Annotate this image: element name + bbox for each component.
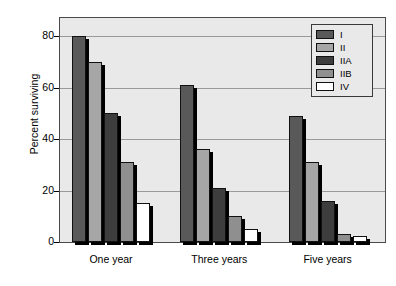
- legend-item: II: [316, 42, 369, 53]
- legend-item: IIB: [316, 68, 369, 79]
- bar-body: [120, 162, 134, 242]
- y-tick-label: 40: [32, 133, 54, 144]
- legend-swatch: [316, 82, 334, 91]
- bar: [104, 113, 118, 242]
- x-group-label: Five years: [278, 253, 378, 265]
- y-tick-label: 60: [32, 82, 54, 93]
- x-group-label: One year: [61, 253, 161, 265]
- bar: [120, 162, 134, 242]
- bar-chart: Percent surviving 806040200 One yearThre…: [0, 0, 396, 286]
- bar-body: [305, 162, 319, 242]
- legend-label: IIA: [340, 56, 352, 66]
- bar-body: [88, 62, 102, 242]
- legend-swatch: [316, 69, 334, 78]
- bar: [180, 85, 194, 242]
- bar: [72, 36, 86, 242]
- legend-label: II: [340, 43, 345, 53]
- y-tick-label: 0: [32, 236, 54, 247]
- bar: [337, 234, 351, 242]
- bar-body: [180, 85, 194, 242]
- bar-body: [72, 36, 86, 242]
- bar-body: [136, 203, 150, 242]
- bar: [228, 216, 242, 242]
- bar: [289, 116, 303, 242]
- bar-body: [337, 234, 351, 242]
- legend-label: IV: [340, 82, 349, 92]
- bar-body: [321, 201, 335, 242]
- bar: [212, 188, 226, 242]
- bar-body: [244, 229, 258, 242]
- bar-body: [289, 116, 303, 242]
- chart-legend: IIIIIAIIBIV: [311, 24, 373, 97]
- y-tick-label: 20: [32, 185, 54, 196]
- bar: [244, 229, 258, 242]
- legend-label: I: [340, 30, 343, 40]
- bar: [136, 203, 150, 242]
- legend-swatch: [316, 56, 334, 65]
- legend-swatch: [316, 30, 334, 39]
- bar: [88, 62, 102, 242]
- x-group-label: Three years: [169, 253, 269, 265]
- bar: [353, 236, 367, 242]
- bar-body: [104, 113, 118, 242]
- bar: [321, 201, 335, 242]
- bar: [305, 162, 319, 242]
- bar: [196, 149, 210, 242]
- bar-body: [212, 188, 226, 242]
- legend-label: IIB: [340, 69, 352, 79]
- legend-item: I: [316, 29, 369, 40]
- y-axis-tick-labels: 806040200: [26, 0, 54, 286]
- y-tick-label: 80: [32, 30, 54, 41]
- bar-body: [228, 216, 242, 242]
- legend-item: IIA: [316, 55, 369, 66]
- legend-swatch: [316, 43, 334, 52]
- bar-body: [196, 149, 210, 242]
- bar-body: [353, 236, 367, 242]
- legend-item: IV: [316, 81, 369, 92]
